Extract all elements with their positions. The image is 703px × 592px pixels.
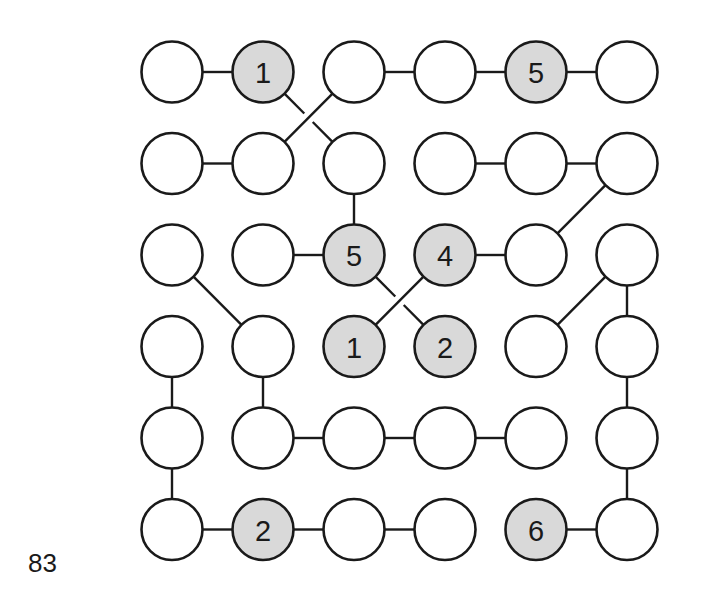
clue-number: 2 bbox=[255, 515, 271, 547]
clue-cell[interactable]: 5 bbox=[324, 225, 385, 286]
cell-circle[interactable] bbox=[142, 499, 203, 560]
empty-cell[interactable] bbox=[506, 225, 567, 286]
cell-circle[interactable] bbox=[506, 133, 567, 194]
clue-cell[interactable]: 1 bbox=[324, 316, 385, 377]
cell-circle[interactable] bbox=[233, 408, 294, 469]
cell-circle[interactable] bbox=[324, 408, 385, 469]
connection-line bbox=[285, 94, 305, 114]
empty-cell[interactable] bbox=[415, 42, 476, 103]
cell-circle[interactable] bbox=[142, 408, 203, 469]
empty-cell[interactable] bbox=[597, 133, 658, 194]
cell-circle[interactable] bbox=[233, 225, 294, 286]
cell-circle[interactable] bbox=[142, 316, 203, 377]
page-number: 83 bbox=[28, 548, 57, 579]
empty-cell[interactable] bbox=[415, 133, 476, 194]
empty-cell[interactable] bbox=[324, 42, 385, 103]
empty-cell[interactable] bbox=[142, 316, 203, 377]
puzzle-diagram: 15541226 bbox=[0, 0, 703, 592]
empty-cell[interactable] bbox=[233, 316, 294, 377]
cell-circle[interactable] bbox=[506, 408, 567, 469]
clue-number: 1 bbox=[346, 332, 362, 364]
connection-line bbox=[376, 277, 396, 297]
cell-circle[interactable] bbox=[324, 133, 385, 194]
cell-circle[interactable] bbox=[142, 225, 203, 286]
connection-line bbox=[194, 277, 242, 325]
empty-cell[interactable] bbox=[233, 225, 294, 286]
clue-cell[interactable]: 5 bbox=[506, 42, 567, 103]
empty-cell[interactable] bbox=[324, 133, 385, 194]
empty-cell[interactable] bbox=[506, 133, 567, 194]
empty-cell[interactable] bbox=[506, 408, 567, 469]
cell-circle[interactable] bbox=[233, 316, 294, 377]
cell-circle[interactable] bbox=[506, 225, 567, 286]
empty-cell[interactable] bbox=[324, 408, 385, 469]
cell-circle[interactable] bbox=[597, 42, 658, 103]
clue-cell[interactable]: 2 bbox=[233, 499, 294, 560]
empty-cell[interactable] bbox=[597, 408, 658, 469]
empty-cell[interactable] bbox=[415, 499, 476, 560]
empty-cell[interactable] bbox=[506, 316, 567, 377]
empty-cell[interactable] bbox=[597, 316, 658, 377]
cell-circle[interactable] bbox=[597, 225, 658, 286]
cell-circle[interactable] bbox=[415, 408, 476, 469]
clue-number: 6 bbox=[528, 515, 544, 547]
empty-cell[interactable] bbox=[142, 499, 203, 560]
connection-line bbox=[558, 185, 606, 233]
clue-number: 5 bbox=[528, 57, 544, 89]
cell-circle[interactable] bbox=[233, 133, 294, 194]
empty-cell[interactable] bbox=[597, 225, 658, 286]
empty-cell[interactable] bbox=[324, 499, 385, 560]
empty-cell[interactable] bbox=[142, 225, 203, 286]
clue-cell[interactable]: 2 bbox=[415, 316, 476, 377]
cell-circle[interactable] bbox=[324, 42, 385, 103]
connection-line bbox=[404, 305, 424, 325]
connection-line bbox=[558, 277, 606, 325]
cell-circle[interactable] bbox=[597, 408, 658, 469]
empty-cell[interactable] bbox=[597, 42, 658, 103]
connection-line bbox=[313, 122, 333, 142]
empty-cell[interactable] bbox=[142, 133, 203, 194]
empty-cell[interactable] bbox=[233, 408, 294, 469]
edges-layer bbox=[172, 72, 627, 530]
empty-cell[interactable] bbox=[597, 499, 658, 560]
clue-cell[interactable]: 6 bbox=[506, 499, 567, 560]
cell-circle[interactable] bbox=[597, 316, 658, 377]
cell-circle[interactable] bbox=[415, 499, 476, 560]
cell-circle[interactable] bbox=[415, 133, 476, 194]
cell-circle[interactable] bbox=[324, 499, 385, 560]
clue-cell[interactable]: 1 bbox=[233, 42, 294, 103]
clue-number: 5 bbox=[346, 240, 362, 272]
clue-number: 2 bbox=[437, 332, 453, 364]
empty-cell[interactable] bbox=[142, 42, 203, 103]
empty-cell[interactable] bbox=[233, 133, 294, 194]
clue-number: 1 bbox=[255, 57, 271, 89]
clue-number: 4 bbox=[437, 240, 453, 272]
empty-cell[interactable] bbox=[142, 408, 203, 469]
cell-circle[interactable] bbox=[597, 499, 658, 560]
cell-circle[interactable] bbox=[415, 42, 476, 103]
clue-cell[interactable]: 4 bbox=[415, 225, 476, 286]
cell-circle[interactable] bbox=[142, 42, 203, 103]
empty-cell[interactable] bbox=[415, 408, 476, 469]
cell-circle[interactable] bbox=[597, 133, 658, 194]
cell-circle[interactable] bbox=[506, 316, 567, 377]
cell-circle[interactable] bbox=[142, 133, 203, 194]
